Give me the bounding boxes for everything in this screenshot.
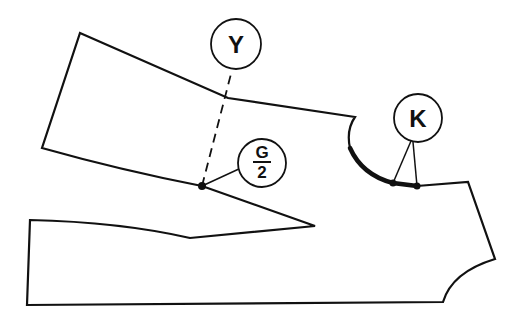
k-leader-line-2 [413, 142, 417, 186]
k-callout-label: K [409, 105, 427, 132]
g-half-denominator: 2 [257, 163, 266, 182]
k-leader-line-1 [393, 141, 411, 183]
armhole-highlight [350, 148, 417, 186]
y-callout-label: Y [228, 31, 244, 58]
pattern-diagram: Y G 2 K [0, 0, 524, 322]
g-half-leader-line [202, 168, 241, 186]
g-half-numerator: G [255, 143, 268, 162]
